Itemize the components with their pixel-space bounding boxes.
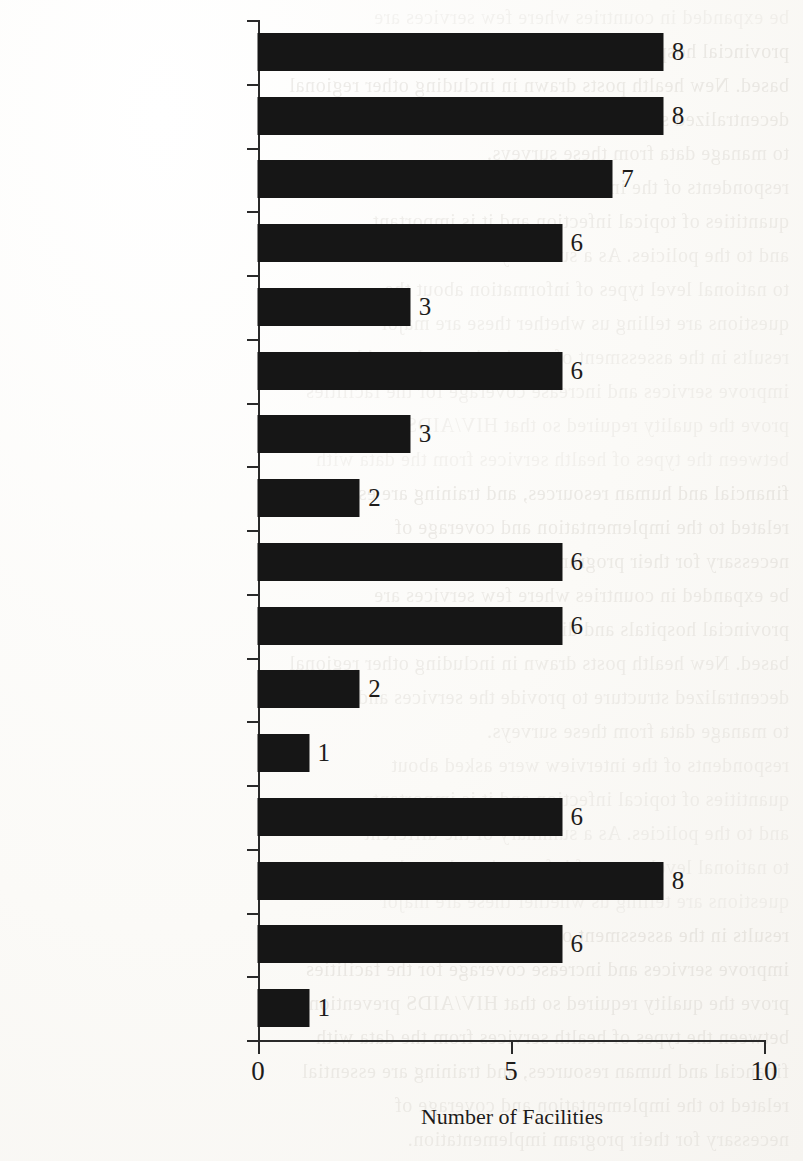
y-axis-tick bbox=[247, 913, 258, 915]
bar bbox=[258, 543, 562, 580]
bar bbox=[258, 288, 410, 325]
bar-value-label: 7 bbox=[612, 165, 634, 193]
bar bbox=[258, 798, 562, 835]
plot-area: OI treatment8Meds-topical fungus8Pneumon… bbox=[258, 20, 764, 1040]
bar bbox=[258, 926, 562, 963]
bar-row: All OI meds3 bbox=[258, 275, 764, 339]
x-axis-tick-label: 5 bbox=[504, 1056, 518, 1087]
y-axis-tick bbox=[247, 339, 258, 341]
bar bbox=[258, 671, 359, 708]
y-axis-tick bbox=[247, 1040, 258, 1042]
bar-row: Pneumonia7 bbox=[258, 148, 764, 212]
bar-value-label: 6 bbox=[562, 229, 584, 257]
bar-value-label: 2 bbox=[359, 484, 381, 512]
y-axis-tick bbox=[247, 849, 258, 851]
x-axis-tick bbox=[258, 1042, 260, 1054]
bar-row: OI treatment8 bbox=[258, 20, 764, 84]
bar-value-label: 6 bbox=[562, 612, 584, 640]
y-axis-tick bbox=[247, 211, 258, 213]
bar-value-label: 8 bbox=[663, 38, 685, 66]
bar-value-label: 8 bbox=[663, 867, 685, 895]
bar bbox=[258, 352, 562, 389]
y-axis-tick bbox=[247, 721, 258, 723]
y-axis-tick bbox=[247, 403, 258, 405]
bar bbox=[258, 161, 612, 198]
bar-row: Meds-Vitamins3 bbox=[258, 403, 764, 467]
bar-value-label: 2 bbox=[359, 675, 381, 703]
bar-row: Deworm6 bbox=[258, 594, 764, 658]
bar-value-label: 6 bbox=[562, 548, 584, 576]
y-axis-tick bbox=[247, 275, 258, 277]
bar-value-label: 6 bbox=[562, 803, 584, 831]
y-axis-tick bbox=[247, 594, 258, 596]
bar bbox=[258, 225, 562, 262]
bar bbox=[258, 990, 309, 1027]
bar-value-label: 6 bbox=[562, 930, 584, 958]
bar-row: All palliative care meds1 bbox=[258, 721, 764, 785]
x-axis-tick bbox=[764, 1042, 766, 1054]
bar-row: Confidentiality protocol1 bbox=[258, 976, 764, 1040]
bar-value-label: 8 bbox=[663, 102, 685, 130]
bar-row: Individual client record8 bbox=[258, 849, 764, 913]
y-axis-tick bbox=[247, 20, 258, 22]
bar-chart: OI treatment8Meds-topical fungus8Pneumon… bbox=[0, 0, 803, 1161]
x-axis-tick-label: 0 bbox=[251, 1056, 265, 1087]
y-axis-tick bbox=[247, 976, 258, 978]
y-axis-tick bbox=[247, 785, 258, 787]
bar-row: Service records6 bbox=[258, 913, 764, 977]
y-axis-tick bbox=[247, 84, 258, 86]
bar bbox=[258, 480, 359, 517]
bar-value-label: 1 bbox=[309, 994, 331, 1022]
y-axis-tick bbox=[247, 148, 258, 150]
bar bbox=[258, 607, 562, 644]
bar-row: Meds-topical fungus8 bbox=[258, 84, 764, 148]
y-axis-tick bbox=[247, 658, 258, 660]
bar-row: Palliative care6 bbox=[258, 339, 764, 403]
bar-row: Antidiarrhea2 bbox=[258, 466, 764, 530]
bar-row: Oral pain6 bbox=[258, 530, 764, 594]
bar-row: Other infection6 bbox=[258, 211, 764, 275]
bar-value-label: 1 bbox=[309, 739, 331, 767]
x-axis-tick bbox=[511, 1042, 513, 1054]
bar bbox=[258, 735, 309, 772]
bar-value-label: 3 bbox=[410, 293, 432, 321]
bar-row: Intravenous2 bbox=[258, 658, 764, 722]
x-axis-tick-label: 10 bbox=[751, 1056, 778, 1087]
y-axis-tick bbox=[247, 530, 258, 532]
bar-row: Trained provider OI6 bbox=[258, 785, 764, 849]
bar bbox=[258, 416, 410, 453]
bar-value-label: 6 bbox=[562, 357, 584, 385]
x-axis-title: Number of Facilities bbox=[258, 1104, 766, 1130]
y-axis-tick bbox=[247, 466, 258, 468]
bar bbox=[258, 33, 663, 70]
bar bbox=[258, 97, 663, 134]
bar-value-label: 3 bbox=[410, 420, 432, 448]
bar bbox=[258, 862, 663, 899]
